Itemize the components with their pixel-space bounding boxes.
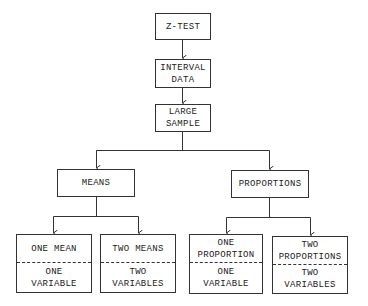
node-two-means: TWO MEANS TWO VARIABLES <box>100 234 176 293</box>
node-two-proportions: TWO PROPORTIONS TWO VARIABLES <box>272 236 348 294</box>
node-large-sample: LARGE SAMPLE <box>155 104 211 132</box>
node-label: SAMPLE <box>166 118 200 130</box>
node-header: ONE MEAN <box>17 235 91 263</box>
node-means: MEANS <box>57 169 135 197</box>
node-label: TWO <box>301 239 318 251</box>
node-label: DATA <box>172 74 195 86</box>
node-one-mean: ONE MEAN ONE VARIABLE <box>16 234 92 293</box>
node-header: TWO MEANS <box>101 235 175 263</box>
node-footer: ONE VARIABLE <box>17 263 91 292</box>
node-footer: ONE VARIABLE <box>190 263 262 293</box>
node-label: PROPORTIONS <box>279 251 342 263</box>
node-label: MEANS <box>82 177 111 189</box>
node-label: VARIABLES <box>284 279 335 291</box>
node-label: ONE <box>217 237 234 249</box>
node-proportions: PROPORTIONS <box>231 170 309 198</box>
node-label: TWO <box>129 266 146 278</box>
node-label: VARIABLES <box>112 278 163 290</box>
node-label: Z-TEST <box>166 21 200 33</box>
node-label: LARGE <box>169 106 198 118</box>
node-footer: TWO VARIABLES <box>101 263 175 292</box>
node-footer: TWO VARIABLES <box>273 265 347 293</box>
node-label: ONE MEAN <box>31 243 77 255</box>
node-label: PROPORTION <box>197 249 254 261</box>
node-label: VARIABLE <box>203 278 249 290</box>
node-interval-data: INTERVAL DATA <box>155 59 211 88</box>
node-label: INTERVAL <box>160 62 206 74</box>
node-label: VARIABLE <box>31 278 77 290</box>
node-one-proportion: ONE PROPORTION ONE VARIABLE <box>189 234 263 294</box>
node-z-test: Z-TEST <box>155 13 211 40</box>
node-label: TWO MEANS <box>112 243 163 255</box>
node-header: TWO PROPORTIONS <box>273 237 347 265</box>
node-label: PROPORTIONS <box>239 178 302 190</box>
node-header: ONE PROPORTION <box>190 235 262 263</box>
node-label: ONE <box>217 266 234 278</box>
node-label: ONE <box>45 266 62 278</box>
node-label: TWO <box>301 267 318 279</box>
